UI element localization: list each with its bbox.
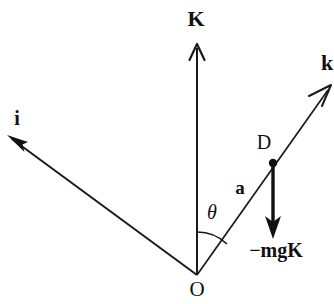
label-vector-a: a bbox=[235, 177, 245, 198]
vector-figure-canvas: K i k O D a θ −mgK bbox=[0, 0, 334, 304]
label-K-upper: K bbox=[187, 6, 204, 31]
label-origin-O: O bbox=[189, 277, 204, 301]
label-k-lower: k bbox=[321, 50, 334, 75]
vector-k-arrowhead bbox=[309, 85, 331, 106]
label-theta: θ bbox=[207, 201, 217, 223]
vector-diagram: K i k O D a θ −mgK bbox=[0, 0, 334, 304]
label-point-D: D bbox=[257, 131, 271, 153]
vector-K-group bbox=[190, 44, 205, 275]
label-i-lower: i bbox=[14, 107, 20, 129]
vector-i-shaft bbox=[12, 139, 197, 275]
label-minus-mgK: −mgK bbox=[249, 239, 303, 262]
vector-i-group bbox=[7, 135, 197, 275]
